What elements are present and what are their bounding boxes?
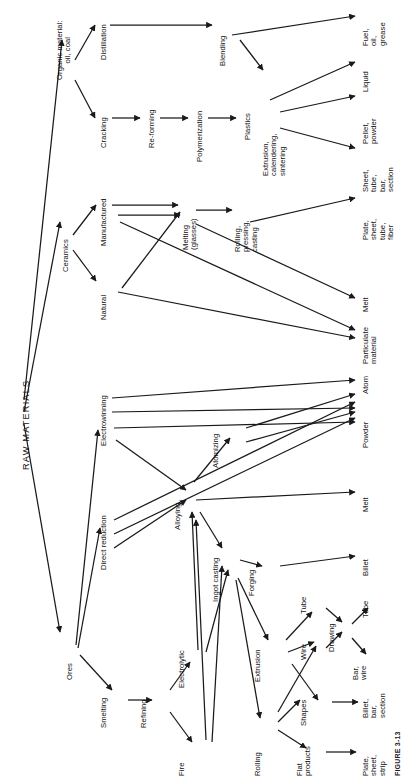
figure-caption: FIGURE 3-13 xyxy=(394,731,402,776)
node-manufactured: Manufactured xyxy=(100,198,108,246)
output-fuel-oil-grease: Fuel, oil, grease xyxy=(362,22,387,46)
node-tube: Tube xyxy=(300,597,308,614)
node-blending: Blending xyxy=(219,36,227,66)
root-label: RAW MATERIALS xyxy=(22,380,30,470)
node-ceramics: Ceramics xyxy=(62,239,70,272)
node-electrolytic: Electrolytic xyxy=(178,650,186,688)
output-pellet-powder: Pellet, powder xyxy=(362,118,379,144)
node-fire: Fire xyxy=(178,763,186,776)
node-direct-reduction: Direct reduction xyxy=(100,515,108,570)
node-shapes: Shapes xyxy=(300,700,308,726)
node-rolling: Rolling xyxy=(254,752,262,776)
output-liquid: Liquid xyxy=(362,71,370,92)
node-wire: Wire xyxy=(300,644,308,660)
node-organic-material: Organic material: oil, coal xyxy=(56,20,73,80)
node-electrowinning: Electrowinning xyxy=(100,395,108,446)
node-drawing: Drawing xyxy=(328,623,336,652)
node-alloying: Alloying xyxy=(174,503,182,530)
node-ores: Ores xyxy=(66,663,74,680)
node-flat-products: Flat products xyxy=(296,746,313,776)
node-polymerization: Polymerization xyxy=(196,111,204,162)
output-melt-metal: Melt xyxy=(362,497,370,512)
output-billet: Billet xyxy=(362,559,370,576)
node-plastics: Plastics xyxy=(244,113,252,140)
output-plate-sheet-tube-fiber: Plate, sheet, tube, fiber xyxy=(362,219,396,240)
node-cracking: Cracking xyxy=(100,117,108,148)
node-reforming: Re-forming xyxy=(148,109,156,148)
node-melting-glasses: Melting (glasses) xyxy=(182,218,199,250)
node-refining: Refining xyxy=(140,699,148,728)
node-forging: Forging xyxy=(248,570,256,596)
node-distillation: Distillation xyxy=(100,24,108,60)
output-atom: Atom xyxy=(362,376,370,394)
figure-canvas: RAW MATERIALS Organic material: oil, coa… xyxy=(0,0,407,780)
output-tube: Tube xyxy=(362,601,370,618)
node-rolling-pressing-casting: Rolling, pressing, casting xyxy=(234,220,259,252)
output-sheet-tube-bar-section: Sheet, tube, bar, section xyxy=(362,167,396,192)
node-smelting: Smelting xyxy=(100,698,108,728)
output-plate-sheet-strip: Plate, sheet, strip xyxy=(362,755,387,776)
output-bar-wire: Bar, wire xyxy=(352,666,369,680)
output-billet-bar-section: Billet, bar, section xyxy=(362,693,387,718)
node-ingot-casting: Ingot casting xyxy=(212,558,220,602)
node-atomizing: Atomizing xyxy=(212,434,220,468)
node-extrusion-calendering-sintering: Extrusion, calendering, sintering xyxy=(262,133,287,176)
node-natural: Natural xyxy=(100,295,108,320)
node-extrusion: Extrusion xyxy=(254,649,262,682)
output-particulate-material: Particulate material xyxy=(362,327,379,364)
output-melt-ceramic: Melt xyxy=(362,297,370,312)
output-powder: Powder xyxy=(362,422,370,448)
